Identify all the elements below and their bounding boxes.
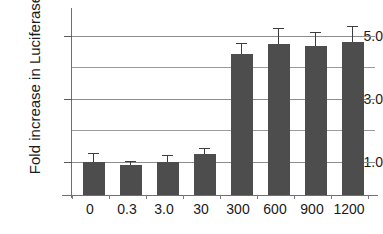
bar-600 [268,44,290,195]
error-bar-stem-600 [278,28,279,44]
error-bar-cap-0.3 [125,161,136,162]
x-tick-mark-2 [146,195,147,199]
error-bar-cap-1200 [347,26,358,27]
y-tick-mark-3 [64,99,72,100]
x-tick-mark-3 [183,195,184,199]
gridline-5 [72,36,375,37]
bar-3.0 [157,162,179,195]
error-bar-cap-900 [310,32,321,33]
gridline-4 [72,67,375,68]
bar-300 [231,54,253,195]
gridline-1 [72,162,375,163]
error-bar-stem-0 [93,153,94,162]
y-tick-mark-5 [64,36,72,37]
bar-0.3 [120,165,142,195]
x-tick-mark-7 [331,195,332,199]
error-bar-stem-1200 [352,26,353,42]
bar-1200 [342,42,364,195]
error-bar-cap-3.0 [162,155,173,156]
y-axis-title: Fold increase in Luciferase [26,0,43,183]
x-tick-mark-6 [294,195,295,199]
error-bar-stem-3.0 [167,155,168,162]
x-tick-label-1200: 1200 [321,201,377,217]
error-bar-cap-0 [88,153,99,154]
error-bar-cap-300 [236,43,247,44]
bar-900 [305,46,327,195]
gridline-2 [72,130,375,131]
x-tick-mark-4 [220,195,221,199]
x-tick-mark-left-edge [72,195,73,199]
x-tick-mark-1 [109,195,110,199]
x-tick-mark-right-edge [368,195,369,199]
error-bar-stem-300 [241,43,242,54]
error-bar-cap-30 [199,148,210,149]
error-bar-stem-900 [315,32,316,46]
x-tick-mark-5 [257,195,258,199]
bar-chart-figure: Fold increase in Luciferase 5.0 3.0 1.0 [0,0,383,234]
bar-0 [83,162,105,195]
plot-area [72,8,375,195]
error-bar-cap-600 [273,28,284,29]
gridline-3 [72,99,375,100]
y-tick-mark-1 [64,162,72,163]
bar-30 [194,154,216,195]
